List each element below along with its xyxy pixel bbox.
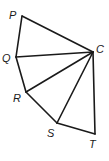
edges <box>16 16 95 134</box>
edge-qr <box>16 57 26 92</box>
edge-tc <box>93 52 95 134</box>
edge-rs <box>26 92 57 123</box>
label-r: R <box>13 92 21 104</box>
edge-pc <box>22 16 93 52</box>
label-s: S <box>47 127 55 139</box>
geometry-diagram: P Q R S T C <box>0 0 109 161</box>
labels: P Q R S T C <box>2 9 104 150</box>
label-p: P <box>9 9 17 21</box>
label-t: T <box>89 138 97 150</box>
edge-pq <box>16 16 22 57</box>
label-q: Q <box>2 52 11 64</box>
edge-st <box>57 123 95 134</box>
label-c: C <box>96 43 104 55</box>
edge-qc <box>16 52 93 57</box>
